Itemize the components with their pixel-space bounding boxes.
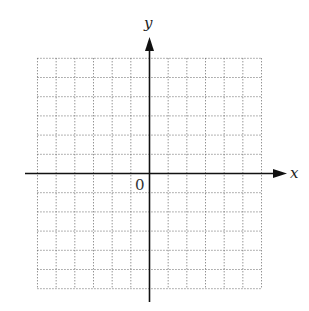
coordinate-plane: x y 0 [0,0,309,311]
y-axis-label: y [143,14,153,32]
x-axis-label: x [290,164,299,182]
origin-label: 0 [135,176,145,194]
x-axis-arrow-icon [273,169,287,178]
y-axis-arrow-icon [145,37,154,51]
